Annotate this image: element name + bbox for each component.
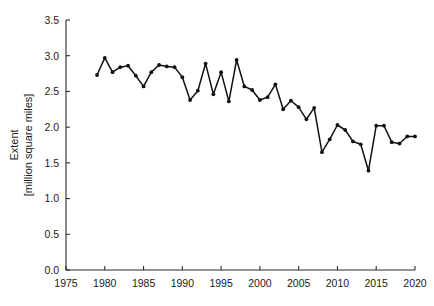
x-tick-label-1975: 1975	[54, 277, 78, 289]
data-point	[196, 89, 200, 93]
data-point	[95, 73, 99, 77]
data-point	[173, 65, 177, 69]
x-tick-label-2000: 2000	[248, 277, 272, 289]
data-point	[126, 64, 130, 68]
y-tick-label-0.5: 0.5	[44, 228, 59, 240]
x-tick-label-2020: 2020	[403, 277, 427, 289]
x-tick-label-1985: 1985	[132, 277, 156, 289]
data-point	[103, 56, 107, 60]
data-point	[374, 124, 378, 128]
data-point	[336, 123, 340, 127]
data-point	[297, 105, 301, 109]
x-tick-label-2015: 2015	[365, 277, 389, 289]
data-point	[343, 128, 347, 132]
data-point	[204, 62, 208, 66]
data-point	[274, 82, 278, 86]
y-axis-title: Extent[million square miles]	[8, 94, 34, 197]
data-point	[305, 117, 309, 121]
y-tick-label-1.5: 1.5	[44, 157, 59, 169]
x-tick-label-1990: 1990	[171, 277, 195, 289]
data-point	[111, 70, 115, 74]
data-series-extent	[95, 56, 417, 173]
data-point	[405, 135, 409, 139]
data-point	[211, 92, 215, 96]
data-point	[382, 124, 386, 128]
y-axis-tick-labels: 0.00.51.01.52.02.53.03.5	[44, 14, 59, 276]
data-point	[390, 140, 394, 144]
data-point	[367, 169, 371, 173]
y-axis-title-line1: Extent	[8, 129, 20, 160]
y-tick-label-3.5: 3.5	[44, 14, 59, 26]
line-chart: Extent[million square miles] 19751980198…	[0, 0, 434, 306]
chart-figure: Extent[million square miles] 19751980198…	[0, 0, 434, 306]
y-tick-label-0.0: 0.0	[44, 264, 59, 276]
data-point	[359, 142, 363, 146]
data-point	[289, 99, 293, 103]
data-point	[180, 75, 184, 79]
y-tick-label-3.0: 3.0	[44, 50, 59, 62]
data-point	[351, 140, 355, 144]
data-point	[142, 85, 146, 89]
y-axis-title-line2: [million square miles]	[22, 94, 34, 197]
axis-spines	[66, 20, 415, 270]
data-point	[227, 100, 231, 104]
data-point	[188, 98, 192, 102]
data-point	[281, 107, 285, 111]
data-point	[250, 88, 254, 92]
y-tick-label-2.0: 2.0	[44, 121, 59, 133]
data-point	[258, 98, 262, 102]
data-point	[413, 135, 417, 139]
data-point	[157, 63, 161, 67]
x-tick-label-2010: 2010	[326, 277, 350, 289]
data-point	[312, 106, 316, 110]
x-tick-label-2005: 2005	[287, 277, 311, 289]
data-point	[134, 74, 138, 78]
data-point	[235, 58, 239, 62]
data-point	[328, 137, 332, 141]
data-point	[320, 150, 324, 154]
x-tick-label-1995: 1995	[209, 277, 233, 289]
data-point	[266, 95, 270, 99]
y-tick-label-2.5: 2.5	[44, 85, 59, 97]
x-tick-label-1980: 1980	[93, 277, 117, 289]
axes	[66, 20, 415, 270]
data-point	[149, 70, 153, 74]
y-tick-label-1.0: 1.0	[44, 192, 59, 204]
x-axis-tick-labels: 1975198019851990199520002005201020152020	[54, 277, 427, 289]
data-point	[118, 65, 122, 69]
data-point	[219, 70, 223, 74]
data-point	[165, 65, 169, 69]
data-point	[242, 85, 246, 89]
series-line-extent	[97, 58, 415, 171]
data-point	[398, 142, 402, 146]
